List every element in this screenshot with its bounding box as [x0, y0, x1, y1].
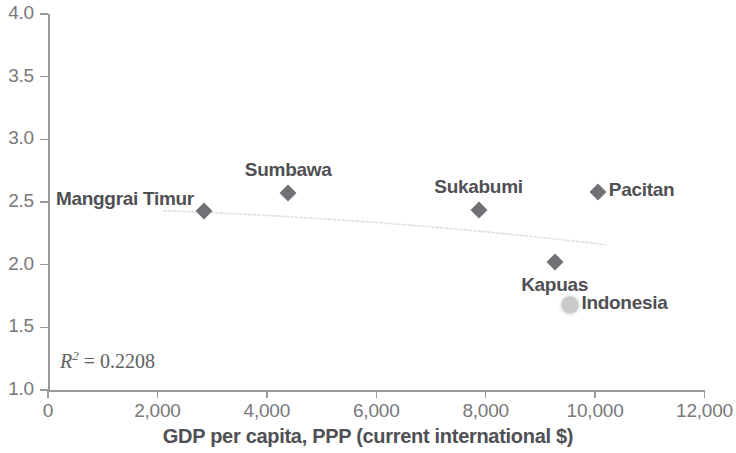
- data-point-label: Indonesia: [581, 292, 667, 314]
- data-point-marker[interactable]: [589, 183, 606, 200]
- x-tick-label: 12,000: [676, 400, 733, 422]
- y-tick-mark: [40, 76, 48, 78]
- scatter-chart-figure: 1.01.52.02.53.03.54.0 02,0004,0006,0008,…: [0, 0, 736, 453]
- x-tick-mark: [704, 390, 706, 398]
- x-tick-label: 0: [43, 400, 53, 422]
- x-tick-label: 6,000: [353, 400, 400, 422]
- y-tick-mark: [40, 201, 48, 203]
- data-point-marker[interactable]: [562, 296, 579, 313]
- x-tick-label: 10,000: [567, 400, 624, 422]
- y-tick-mark: [40, 139, 48, 141]
- x-tick-mark: [266, 390, 268, 398]
- x-tick-mark: [485, 390, 487, 398]
- x-axis-title: GDP per capita, PPP (current internation…: [0, 425, 736, 448]
- x-tick-mark: [157, 390, 159, 398]
- y-tick-label: 2.0: [0, 253, 34, 275]
- y-tick-label: 4.0: [0, 2, 34, 24]
- x-tick-mark: [376, 390, 378, 398]
- x-tick-label: 8,000: [462, 400, 509, 422]
- y-tick-label: 3.5: [0, 65, 34, 87]
- x-tick-mark: [47, 390, 49, 398]
- x-tick-label: 4,000: [244, 400, 291, 422]
- data-point-label: Sukabumi: [434, 176, 522, 198]
- y-tick-label: 3.0: [0, 127, 34, 149]
- r-squared-annotation: R2 = 0.2208: [60, 348, 155, 373]
- trendline: [0, 0, 736, 453]
- r-squared-symbol: R: [60, 350, 72, 372]
- y-tick-mark: [40, 264, 48, 266]
- data-point-label: Kapuas: [521, 274, 588, 296]
- data-point-marker[interactable]: [470, 201, 487, 218]
- data-point-label: Sumbawa: [245, 159, 332, 181]
- r-squared-equals: =: [79, 350, 100, 372]
- r-squared-value: 0.2208: [100, 350, 155, 372]
- data-point-label: Manggrai Timur: [56, 188, 194, 210]
- data-point-marker[interactable]: [546, 254, 563, 271]
- data-point-marker[interactable]: [195, 202, 212, 219]
- y-tick-label: 1.5: [0, 315, 34, 337]
- data-point-label: Pacitan: [609, 179, 675, 201]
- y-axis-line: [48, 14, 50, 391]
- y-tick-mark: [40, 327, 48, 329]
- y-tick-mark: [40, 13, 48, 15]
- y-tick-label: 1.0: [0, 378, 34, 400]
- x-tick-label: 2,000: [134, 400, 181, 422]
- y-tick-label: 2.5: [0, 190, 34, 212]
- x-tick-mark: [594, 390, 596, 398]
- data-point-marker[interactable]: [280, 185, 297, 202]
